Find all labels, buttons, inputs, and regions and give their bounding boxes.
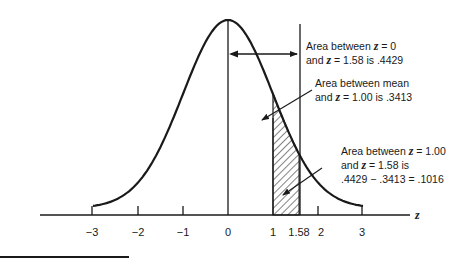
pointer-arrow-mean-to-1 — [262, 90, 312, 120]
svg-text:and z = 1.58 is .4429: and z = 1.58 is .4429 — [306, 53, 403, 67]
tick-label: 1.58 — [288, 226, 309, 238]
svg-text:Area between mean: Area between mean — [315, 77, 409, 89]
svg-text:Area between z = 0: Area between z = 0 — [306, 39, 396, 53]
annotation-area-1-to-1.58: Area between z = 1.00 and z = 1.58 is .4… — [341, 144, 446, 185]
tick-label: −1 — [177, 226, 190, 238]
x-axis-label: z — [414, 208, 420, 222]
tick-label: 2 — [318, 226, 324, 238]
x-tick-labels: −3 −2 −1 0 1 1.58 2 3 — [86, 226, 365, 238]
tick-label: 0 — [225, 226, 231, 238]
annotation-area-mean-to-1: Area between mean and z = 1.00 is .3413 — [315, 77, 412, 104]
tick-label: 1 — [270, 226, 276, 238]
normal-curve-figure: −3 −2 −1 0 1 1.58 2 3 z Area between z =… — [0, 0, 470, 267]
arrow-left-head-icon — [229, 51, 238, 58]
svg-text:and z = 1.00 is .3413: and z = 1.00 is .3413 — [315, 90, 412, 104]
svg-text:Area between z = 1.00: Area between z = 1.00 — [341, 144, 446, 158]
tick-label: 3 — [359, 226, 365, 238]
shaded-area-1-to-1.58 — [273, 94, 299, 215]
tick-label: −3 — [86, 226, 99, 238]
svg-text:.4429 − .3413 = .1016: .4429 − .3413 = .1016 — [341, 173, 444, 185]
x-axis-ticks — [92, 206, 362, 215]
svg-text:and z = 1.58 is: and z = 1.58 is — [341, 158, 409, 172]
annotation-area-0-to-1.58: Area between z = 0 and z = 1.58 is .4429 — [306, 39, 403, 67]
tick-label: −2 — [132, 226, 145, 238]
